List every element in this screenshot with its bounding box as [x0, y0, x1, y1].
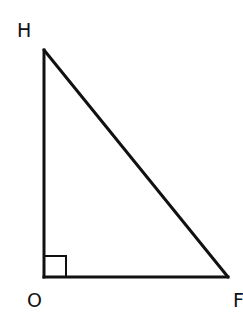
side-hf-hypotenuse — [44, 50, 228, 277]
vertex-label-h: H — [17, 19, 31, 41]
right-triangle-diagram: H O F — [0, 0, 243, 325]
vertex-label-f: F — [233, 289, 243, 311]
right-angle-marker — [44, 256, 66, 277]
vertex-label-o: O — [27, 289, 42, 311]
